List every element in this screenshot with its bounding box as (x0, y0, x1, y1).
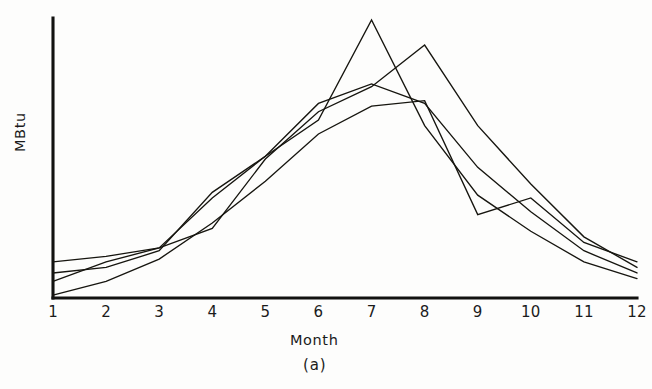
line-chart (0, 0, 652, 389)
figure-caption: (a) (303, 358, 326, 373)
series-layer (53, 20, 637, 295)
series-line-1 (53, 20, 637, 279)
series-line-3 (53, 84, 637, 281)
series-line-4 (53, 101, 637, 296)
x-axis-title: Month (290, 333, 338, 348)
series-line-2 (53, 45, 637, 267)
figure-panel: 123456789101112 Month MBtu (a) (0, 0, 652, 389)
y-axis-title: MBtu (13, 82, 28, 152)
